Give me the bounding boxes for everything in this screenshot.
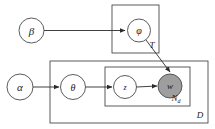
node-alpha: α	[7, 74, 33, 100]
plate-Nd-label-sub: d	[178, 98, 182, 104]
node-theta-label: θ	[71, 82, 76, 93]
node-w-label: w	[167, 81, 173, 91]
node-alpha-label: α	[17, 81, 23, 93]
plate-Nd-label: Nd	[170, 93, 181, 104]
node-beta: β	[19, 18, 44, 43]
plate-diagram-canvas: β φ α θ z w T	[0, 0, 215, 129]
plate-notation-diagram: β φ α θ z w T	[0, 0, 215, 129]
plate-D-label: D	[196, 110, 204, 120]
node-phi: φ	[128, 19, 151, 42]
node-beta-label: β	[28, 25, 35, 37]
node-theta: θ	[61, 75, 86, 100]
plate-T-label: T	[149, 40, 155, 50]
edges-group	[33, 31, 170, 88]
edge-z-to-w	[137, 86, 158, 87]
node-phi-label: φ	[136, 25, 142, 36]
node-z: z	[114, 76, 137, 99]
plates-group	[50, 5, 208, 123]
node-w-observed: w	[158, 74, 182, 98]
